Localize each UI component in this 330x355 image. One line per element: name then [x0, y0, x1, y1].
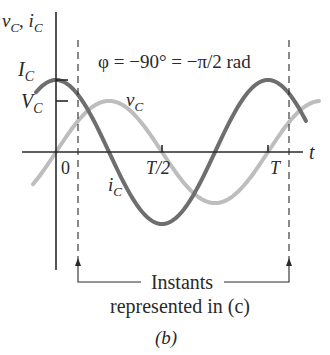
arrowhead-end-icon: [286, 258, 292, 266]
voltage-amplitude-label: VC: [21, 90, 43, 116]
tick-label-half-period: T/2: [146, 158, 170, 178]
bracket-right: [224, 266, 289, 282]
phase-annotation: φ = −90° = −π/2 rad: [98, 51, 251, 72]
tick-label-zero: 0: [61, 158, 70, 178]
tick-label-period: T: [270, 158, 282, 178]
instants-label-line2: represented in (c): [110, 295, 250, 318]
instants-label-line1: Instants: [151, 271, 213, 293]
bracket-left: [78, 266, 141, 282]
current-amplitude-label: IC: [17, 58, 35, 84]
t-axis-label: t: [309, 141, 315, 163]
panel-label: (b): [155, 327, 177, 349]
y-axis-label: vC, iC: [2, 10, 43, 35]
arrowhead-start-icon: [75, 258, 81, 266]
phase-diagram: vC, iC t IC VC 0 T/2 T φ = −90° = −π/2 r…: [0, 0, 330, 355]
